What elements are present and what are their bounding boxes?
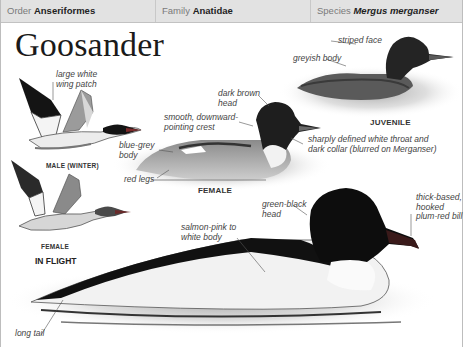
annotation-line: body: [119, 151, 154, 161]
annotation-salmon-pink-body: salmon-pink to white body: [181, 223, 236, 242]
annotation-greyish-body: greyish body: [293, 54, 341, 64]
annotation-red-legs: red legs: [124, 175, 154, 185]
annotation-plum-red-bill: thick-based, hooked plum-red bill: [416, 193, 462, 222]
female-flight-caption: FEMALE: [41, 243, 69, 250]
annotation-line: pointing crest: [164, 123, 238, 133]
in-flight-heading: IN FLIGHT: [35, 256, 77, 266]
page-title: Goosander: [15, 26, 164, 64]
annotation-line: head: [262, 210, 306, 220]
annotation-line: white body: [181, 233, 236, 243]
female-flight-illustration: [11, 160, 131, 230]
annotation-long-tail: long tail: [15, 329, 44, 339]
female-caption: FEMALE: [198, 186, 232, 195]
annotation-green-black-head: green-black head: [262, 200, 306, 219]
annotation-line: plum-red bill: [416, 212, 462, 222]
annotation-smooth-crest: smooth, downward- pointing crest: [164, 113, 238, 132]
juvenile-caption: JUVENILE: [370, 118, 411, 127]
annotation-line: dark collar (blurred on Merganser): [308, 145, 437, 155]
annotation-large-white-wing-patch: large white wing patch: [56, 70, 97, 89]
annotation-blue-grey-body: blue-grey body: [119, 141, 154, 160]
annotation-striped-face: striped face: [338, 36, 382, 46]
annotation-dark-brown-head: dark brown head: [218, 89, 260, 108]
annotation-white-throat: sharply defined white throat and dark co…: [308, 135, 437, 154]
annotation-line: head: [218, 99, 260, 109]
juvenile-illustration: [279, 37, 463, 118]
annotation-line: wing patch: [56, 80, 97, 90]
male-winter-caption: MALE (WINTER): [46, 162, 99, 169]
